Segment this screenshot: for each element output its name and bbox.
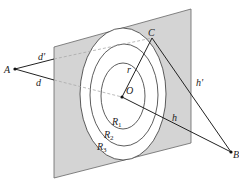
segment-d — [15, 69, 54, 80]
label-a: A — [3, 64, 11, 75]
label-h: h — [172, 112, 177, 123]
geometry-diagram: A B O C d' d r h' h R1 R2 R3 — [0, 0, 239, 187]
label-d: d — [36, 77, 42, 88]
point-a — [13, 67, 16, 70]
label-d-prime: d' — [38, 51, 46, 62]
label-r: r — [127, 64, 131, 75]
label-b: B — [233, 149, 239, 160]
point-o — [120, 95, 123, 98]
label-c: C — [148, 27, 155, 38]
label-o: O — [126, 85, 133, 96]
segment-d-prime — [15, 59, 54, 69]
label-h-prime: h' — [196, 77, 204, 88]
